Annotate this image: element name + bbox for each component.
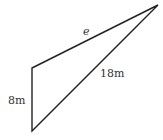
- label-side-e: e: [83, 25, 90, 38]
- label-hypotenuse: 18m: [100, 67, 125, 80]
- triangle-diagram: e 18m 8m: [0, 0, 163, 140]
- label-vertical-side: 8m: [8, 94, 26, 107]
- triangle-shape: [32, 5, 158, 131]
